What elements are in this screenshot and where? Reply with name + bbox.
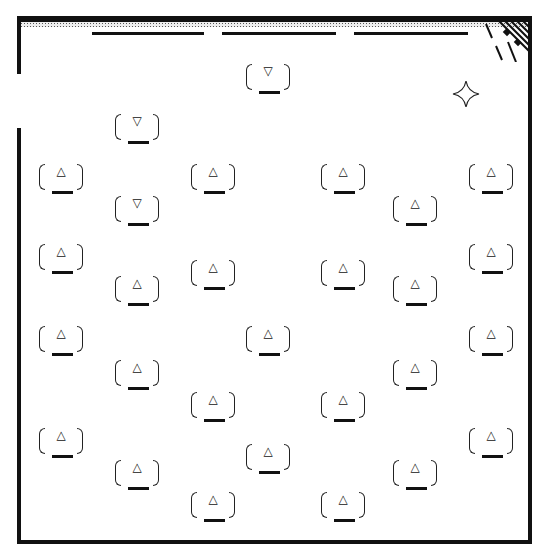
piece-up[interactable]: △	[321, 162, 365, 202]
piece-up[interactable]: △	[39, 242, 83, 282]
piece-up[interactable]: △	[321, 258, 365, 298]
bracket-right	[153, 276, 159, 302]
piece-up[interactable]: △	[246, 324, 290, 364]
piece-down[interactable]: ▽	[115, 194, 159, 234]
piece-up[interactable]: △	[393, 358, 437, 398]
piece-up[interactable]: △	[321, 390, 365, 430]
piece-base	[204, 191, 225, 194]
piece-up[interactable]: △	[115, 274, 159, 314]
piece-base	[482, 455, 503, 458]
bracket-right	[229, 260, 235, 286]
bracket-right	[507, 326, 513, 352]
piece-up[interactable]: △	[191, 390, 235, 430]
bracket-right	[284, 64, 290, 90]
piece-up[interactable]: △	[393, 274, 437, 314]
piece-base	[334, 519, 355, 522]
piece-base	[204, 287, 225, 290]
piece-up[interactable]: △	[115, 458, 159, 498]
top-band-pattern	[20, 18, 528, 27]
piece-base	[259, 471, 280, 474]
piece-up[interactable]: △	[39, 426, 83, 466]
piece-base	[259, 353, 280, 356]
piece-base	[334, 287, 355, 290]
bracket-right	[359, 492, 365, 518]
piece-base	[482, 191, 503, 194]
game-board: ▽▽△△△△▽△△△△△△△△△△△△△△△△△△△△△	[0, 0, 556, 560]
piece-up[interactable]: △	[191, 490, 235, 530]
piece-base	[52, 455, 73, 458]
bracket-right	[77, 244, 83, 270]
piece-base	[52, 271, 73, 274]
piece-base	[259, 91, 280, 94]
top-dash	[92, 32, 204, 35]
piece-base	[128, 223, 149, 226]
piece-down[interactable]: ▽	[115, 112, 159, 152]
piece-base	[128, 303, 149, 306]
bracket-right	[153, 360, 159, 386]
piece-base	[406, 487, 427, 490]
piece-base	[204, 519, 225, 522]
bracket-right	[359, 392, 365, 418]
wall-right	[528, 16, 532, 544]
bracket-right	[507, 428, 513, 454]
piece-up[interactable]: △	[246, 442, 290, 482]
bracket-right	[507, 244, 513, 270]
wall-left-upper	[17, 16, 21, 74]
piece-up[interactable]: △	[469, 242, 513, 282]
bracket-right	[153, 460, 159, 486]
piece-up[interactable]: △	[393, 194, 437, 234]
bracket-right	[359, 164, 365, 190]
piece-base	[52, 191, 73, 194]
piece-down[interactable]: ▽	[246, 62, 290, 102]
piece-base	[128, 487, 149, 490]
piece-base	[334, 419, 355, 422]
bracket-right	[229, 392, 235, 418]
piece-up[interactable]: △	[39, 324, 83, 364]
piece-base	[482, 271, 503, 274]
bracket-right	[507, 164, 513, 190]
bracket-right	[77, 326, 83, 352]
piece-up[interactable]: △	[191, 162, 235, 202]
piece-up[interactable]: △	[115, 358, 159, 398]
sparkle-icon[interactable]	[452, 80, 480, 108]
piece-base	[128, 141, 149, 144]
piece-base	[482, 353, 503, 356]
piece-up[interactable]: △	[39, 162, 83, 202]
top-dash	[222, 32, 336, 35]
hatched-corner-icon	[484, 16, 530, 62]
piece-up[interactable]: △	[191, 258, 235, 298]
bracket-right	[431, 460, 437, 486]
bracket-right	[431, 276, 437, 302]
wall-left-lower	[17, 128, 21, 544]
piece-base	[334, 191, 355, 194]
bracket-right	[431, 360, 437, 386]
bracket-right	[284, 444, 290, 470]
bracket-right	[229, 164, 235, 190]
bracket-right	[229, 492, 235, 518]
piece-up[interactable]: △	[393, 458, 437, 498]
bracket-right	[153, 196, 159, 222]
piece-base	[204, 419, 225, 422]
bracket-right	[359, 260, 365, 286]
piece-up[interactable]: △	[469, 162, 513, 202]
bracket-right	[153, 114, 159, 140]
piece-base	[406, 223, 427, 226]
piece-base	[406, 387, 427, 390]
piece-base	[52, 353, 73, 356]
piece-up[interactable]: △	[321, 490, 365, 530]
bracket-right	[77, 428, 83, 454]
bracket-right	[77, 164, 83, 190]
piece-up[interactable]: △	[469, 426, 513, 466]
piece-base	[128, 387, 149, 390]
wall-bottom	[17, 540, 532, 544]
piece-base	[406, 303, 427, 306]
bracket-right	[431, 196, 437, 222]
piece-up[interactable]: △	[469, 324, 513, 364]
bracket-right	[284, 326, 290, 352]
top-dash	[354, 32, 468, 35]
